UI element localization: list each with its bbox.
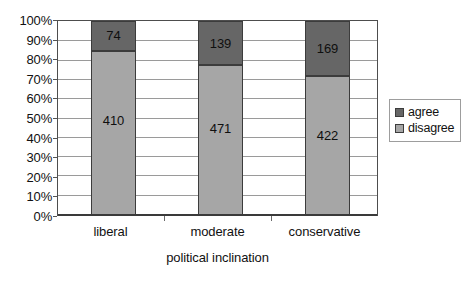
bar-segment-liberal-disagree[interactable]: 410 xyxy=(91,51,136,215)
x-axis-title: political inclination xyxy=(57,250,378,265)
y-tick-label-100: 100% xyxy=(0,14,52,27)
bar-group-liberal[interactable]: 74 410 xyxy=(91,21,136,215)
y-tick-label-40: 40% xyxy=(0,132,52,145)
legend-item-agree[interactable]: agree xyxy=(395,104,455,120)
bar-segment-conservative-disagree[interactable]: 422 xyxy=(305,76,350,215)
bar-group-conservative[interactable]: 169 422 xyxy=(305,21,350,215)
bar-value-conservative-agree: 169 xyxy=(317,42,338,55)
y-tick-label-0: 0% xyxy=(0,210,52,223)
x-category-label-liberal: liberal xyxy=(57,224,164,239)
y-tick-label-50: 50% xyxy=(0,112,52,125)
y-axis: 100% 90% 80% 70% 60% 50% 40% 30% 20% 10%… xyxy=(0,14,52,216)
legend-swatch-agree-icon xyxy=(395,108,404,117)
legend-swatch-disagree-icon xyxy=(395,124,404,133)
y-tick-label-10: 10% xyxy=(0,190,52,203)
x-category-label-moderate: moderate xyxy=(164,224,271,239)
legend-label-disagree: disagree xyxy=(408,122,454,135)
y-tick-label-80: 80% xyxy=(0,53,52,66)
y-tick-label-20: 20% xyxy=(0,171,52,184)
y-tick-label-30: 30% xyxy=(0,151,52,164)
bar-value-moderate-agree: 139 xyxy=(210,37,231,50)
x-axis-baseline xyxy=(58,214,377,216)
y-tick-label-90: 90% xyxy=(0,34,52,47)
legend-label-agree: agree xyxy=(408,106,439,119)
bar-value-liberal-agree: 74 xyxy=(106,29,120,42)
bar-value-moderate-disagree: 471 xyxy=(210,122,231,135)
bar-segment-liberal-agree[interactable]: 74 xyxy=(91,21,136,51)
x-category-tick-2 xyxy=(271,216,272,221)
legend: agree disagree xyxy=(389,99,461,142)
bar-segment-conservative-agree[interactable]: 169 xyxy=(305,21,350,76)
x-category-tick-1 xyxy=(164,216,165,221)
bar-value-conservative-disagree: 422 xyxy=(317,128,338,141)
bar-segment-moderate-agree[interactable]: 139 xyxy=(198,21,243,65)
x-category-label-conservative: conservative xyxy=(271,224,378,239)
stacked-bar-chart: 100% 90% 80% 70% 60% 50% 40% 30% 20% 10%… xyxy=(0,0,472,282)
bars-layer: 74 410 139 471 169 xyxy=(58,21,377,215)
bar-value-liberal-disagree: 410 xyxy=(103,113,124,126)
y-tick-label-60: 60% xyxy=(0,92,52,105)
legend-item-disagree[interactable]: disagree xyxy=(395,120,455,136)
y-tick-mark-0 xyxy=(53,216,57,217)
bar-group-moderate[interactable]: 139 471 xyxy=(198,21,243,215)
bar-segment-moderate-disagree[interactable]: 471 xyxy=(198,65,243,215)
plot-area: 74 410 139 471 169 xyxy=(57,20,378,216)
y-tick-label-70: 70% xyxy=(0,73,52,86)
